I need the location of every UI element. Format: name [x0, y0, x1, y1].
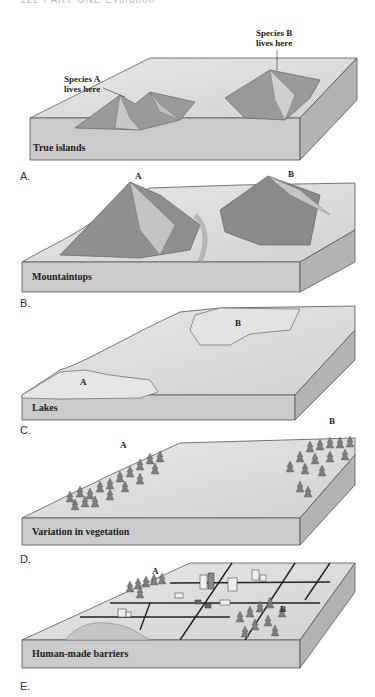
species-a-line1: Species A — [64, 74, 100, 84]
panel-d-letter: D. — [20, 553, 31, 565]
forest-b-label: B — [329, 416, 335, 426]
lake-a-label: A — [80, 377, 87, 387]
lake-b-label: B — [235, 318, 241, 328]
isolation-barriers-figure — [0, 0, 375, 697]
panel-c-lakes — [22, 306, 355, 420]
area-a-label: A — [152, 566, 159, 576]
area-b-label: B — [280, 604, 286, 614]
panel-c-title: Lakes — [32, 402, 58, 413]
panel-d-title: Variation in vegetation — [32, 526, 129, 537]
species-a-line2: lives here — [64, 84, 100, 94]
species-b-line2: lives here — [256, 38, 292, 48]
forest-a-label: A — [120, 440, 127, 450]
mountain-b-label: B — [288, 169, 294, 179]
panel-a-letter: A. — [20, 170, 30, 182]
panel-e-title: Human-made barriers — [32, 648, 128, 659]
species-b-label: Species B lives here — [256, 28, 292, 48]
panel-a-title: True islands — [33, 142, 85, 153]
panel-c-letter: C. — [20, 424, 31, 436]
mountain-a-label: A — [135, 171, 142, 181]
panel-b-title: Mountaintops — [32, 271, 92, 282]
species-b-line1: Species B — [256, 28, 292, 38]
species-a-label: Species A lives here — [64, 74, 100, 94]
panel-b-letter: B. — [20, 297, 30, 309]
panel-e-letter: E. — [20, 680, 30, 692]
